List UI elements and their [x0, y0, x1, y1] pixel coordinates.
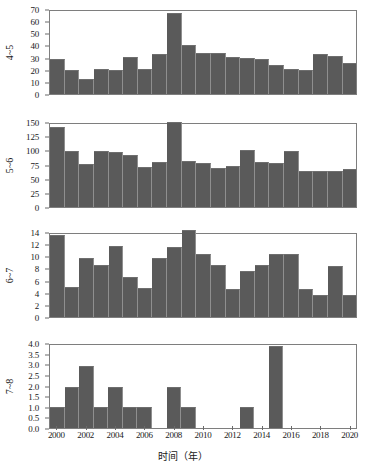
panel-4-5-ytick-mark: [45, 58, 49, 59]
bar-2020: [343, 63, 357, 94]
xtick-label-2006: 2006: [136, 430, 153, 440]
panel-6-7-ytick-label: 0: [35, 314, 39, 323]
panel-4-5-ytick-mark: [45, 70, 49, 71]
panel-4-5-ytick-label: 40: [30, 42, 39, 51]
panel-7-8-plot-area: [49, 344, 357, 429]
xtick-label-2012: 2012: [224, 430, 241, 440]
bar-2015: [269, 163, 284, 207]
panel-6-7-plot-area: [49, 233, 357, 318]
bar-2001: [65, 70, 80, 94]
panel-5-6-ytick-label: 100: [26, 147, 39, 156]
bar-2005: [123, 407, 138, 428]
panel-7-8-ytick-label: 0.0: [28, 425, 39, 434]
bar-2013: [240, 150, 255, 207]
bar-2002: [79, 258, 94, 317]
bar-2010: [196, 163, 211, 207]
panel-7-8-y-axis-title: 7~8: [4, 378, 15, 393]
panel-4-5-ytick-label: 60: [30, 18, 39, 27]
panel-5-6-ytick-mark: [45, 193, 49, 194]
bar-2000: [50, 59, 65, 94]
panel-5-6-ytick-label: 150: [26, 119, 39, 128]
x-axis-title: 时间（年）: [0, 448, 365, 463]
bar-2015: [269, 65, 284, 94]
panel-7-8-ytick-mark: [45, 354, 49, 355]
xtick-mark-2014: [262, 426, 263, 430]
panel-5-6-ytick-label: 75: [30, 161, 39, 170]
bar-2016: [284, 151, 299, 207]
xtick-mark-2008: [174, 426, 175, 430]
xtick-label-2008: 2008: [165, 430, 182, 440]
bar-2018: [313, 171, 328, 207]
bar-2006: [138, 167, 153, 207]
bar-2013: [240, 407, 255, 428]
bar-2003: [94, 151, 109, 207]
panel-7-8-ytick-mark: [45, 418, 49, 419]
bar-2009: [182, 161, 197, 207]
bar-2004: [109, 70, 124, 94]
bar-2007: [152, 162, 167, 207]
panel-6-7-ytick-mark: [45, 233, 49, 234]
bar-2018: [313, 295, 328, 317]
bar-2009: [182, 230, 197, 317]
panel-5-6-y-axis-title: 5~6: [4, 157, 15, 172]
xtick-label-2016: 2016: [283, 430, 300, 440]
panel-6-7-ytick-label: 12: [30, 241, 39, 250]
bar-2009: [182, 45, 197, 94]
panel-5-6-ytick-mark: [45, 165, 49, 166]
bar-2006: [137, 407, 152, 428]
panel-5-6-ytick-mark: [45, 151, 49, 152]
panel-6-7-ytick-label: 2: [35, 301, 39, 310]
bar-2013: [240, 271, 255, 317]
bar-2011: [211, 168, 226, 207]
bar-2008: [167, 387, 182, 429]
xtick-mark-2002: [86, 426, 87, 430]
panel-6-7-ytick-mark: [45, 245, 49, 246]
panel-4-5-ytick-mark: [45, 95, 49, 96]
bar-2020: [343, 169, 357, 207]
xtick-mark-2004: [115, 426, 116, 430]
bar-2014: [255, 59, 270, 94]
bar-2011: [211, 265, 226, 317]
bar-2017: [299, 171, 314, 207]
bar-2005: [123, 277, 138, 317]
bar-2018: [313, 54, 328, 94]
panel-6-7-bars: [50, 234, 356, 317]
bar-2008: [167, 122, 182, 207]
bar-2003: [94, 407, 109, 428]
panel-5-6-plot-area: [49, 123, 357, 208]
panel-4-5-ytick-mark: [45, 82, 49, 83]
panel-7-8-ytick-label: 0.5: [28, 414, 39, 423]
panel-6-7-ytick-mark: [45, 269, 49, 270]
bar-2005: [123, 57, 138, 94]
bar-2000: [50, 235, 65, 317]
xtick-label-2004: 2004: [107, 430, 124, 440]
panel-4-5-plot-area: [49, 10, 357, 95]
panel-5-6-ytick-mark: [45, 123, 49, 124]
bar-2020: [343, 295, 357, 317]
panel-6-7-ytick-label: 10: [30, 253, 39, 262]
bar-2012: [226, 57, 241, 94]
panel-6-7-ytick-mark: [45, 293, 49, 294]
xtick-label-2000: 2000: [48, 430, 65, 440]
bar-2008: [167, 247, 182, 317]
bar-2004: [109, 246, 124, 317]
panel-6-7-ytick-label: 14: [30, 229, 39, 238]
xtick-mark-2016: [291, 426, 292, 430]
panel-5-6-ytick-mark: [45, 208, 49, 209]
bar-2015: [269, 254, 284, 317]
xtick-mark-2000: [56, 426, 57, 430]
panel-7-8-ytick-label: 1.5: [28, 393, 39, 402]
panel-7-8-ytick-mark: [45, 344, 49, 345]
bar-2003: [94, 265, 109, 317]
bar-2001: [65, 151, 80, 207]
xtick-mark-2020: [350, 426, 351, 430]
bar-2015: [269, 346, 284, 428]
panel-7-8-ytick-mark: [45, 386, 49, 387]
bar-2001: [65, 287, 80, 317]
bar-2002: [79, 79, 94, 94]
bar-2009: [181, 407, 196, 428]
bar-2006: [138, 288, 153, 317]
panel-5-6-ytick-mark: [45, 179, 49, 180]
xtick-mark-2012: [232, 426, 233, 430]
panel-4-5-bars: [50, 11, 356, 94]
